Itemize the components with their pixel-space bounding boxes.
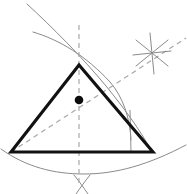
figure-background xyxy=(0,0,187,194)
geometry-figure xyxy=(0,0,187,194)
centroid-point xyxy=(75,96,84,105)
construction-canvas xyxy=(0,0,187,194)
